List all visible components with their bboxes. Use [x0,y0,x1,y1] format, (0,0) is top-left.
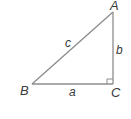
triangle-svg: A B C c b a [0,0,131,119]
side-label-c: c [65,36,71,50]
side-c-line [32,12,113,84]
vertex-label-a: A [109,0,119,13]
side-label-a: a [69,85,76,99]
vertex-label-b: B [20,83,29,98]
side-label-b: b [116,43,123,57]
triangle-edges [32,12,113,84]
right-angle-marker [107,79,113,84]
triangle-diagram: A B C c b a [0,0,131,119]
vertex-label-c: C [111,85,121,100]
